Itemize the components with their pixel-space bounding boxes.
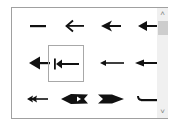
reverse-feather-arrow-icon: [96, 92, 126, 106]
arrow-style-reverse-feather-arrow[interactable]: [94, 82, 128, 116]
arrow-style-gallery: ˄ ˅: [11, 7, 168, 119]
small-arrow-icon: [96, 56, 126, 70]
vertical-scrollbar[interactable]: ˄ ˅: [157, 8, 168, 118]
arrow-style-double-arrow[interactable]: [22, 82, 56, 116]
scroll-down-button[interactable]: ˅: [157, 106, 168, 118]
arrow-style-stealth-arrow[interactable]: [94, 9, 128, 43]
stealth-arrow-icon: [96, 19, 126, 33]
arrow-style-bar-arrow[interactable]: [48, 45, 84, 82]
arrow-style-none[interactable]: [22, 9, 56, 43]
arrow-style-open-arrow[interactable]: [58, 9, 92, 43]
scroll-thumb[interactable]: [158, 21, 168, 35]
feather-arrow-icon: [60, 92, 90, 106]
chevron-down-icon: ˅: [160, 108, 165, 116]
double-arrow-icon: [24, 92, 54, 106]
chevron-up-icon: ˄: [160, 10, 165, 18]
scroll-up-button[interactable]: ˄: [157, 8, 168, 20]
line-no-arrow-icon: [24, 19, 54, 33]
arrow-style-small-arrow[interactable]: [94, 46, 128, 80]
arrow-style-feather-arrow[interactable]: [58, 82, 92, 116]
open-arrow-icon: [60, 19, 90, 33]
bar-arrow-icon: [51, 57, 81, 71]
